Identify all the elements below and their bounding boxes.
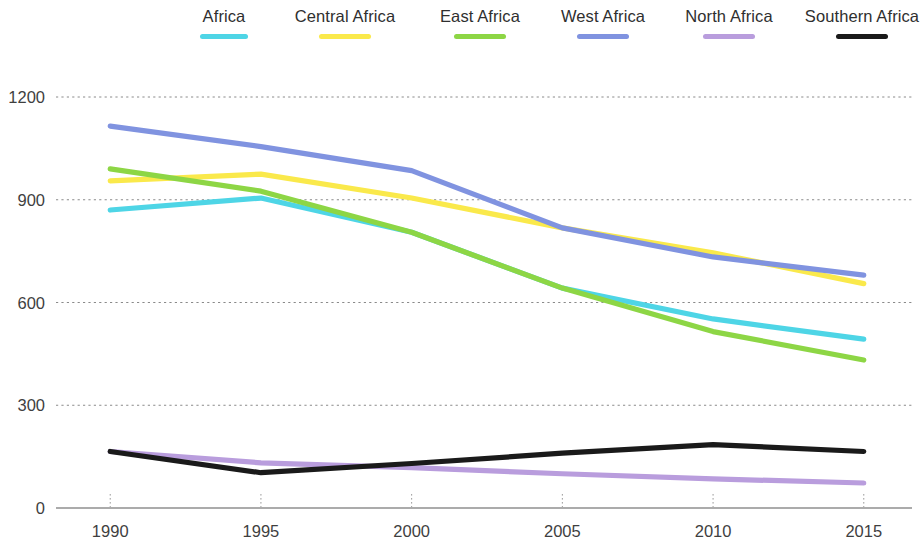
- y-axis-tick-label: 0: [36, 499, 45, 517]
- y-axis-tick-label: 300: [17, 396, 45, 414]
- x-axis-tick-label: 2010: [695, 522, 732, 540]
- chart-plot-area: 12009006003000 199019952000200520102015: [0, 56, 915, 545]
- legend-label: North Africa: [664, 6, 794, 26]
- series-line-central-africa: [110, 174, 864, 284]
- x-axis-tick-label: 1990: [92, 522, 129, 540]
- legend-item-africa[interactable]: Africa: [179, 6, 269, 39]
- x-axis-tick-label: 1995: [243, 522, 280, 540]
- legend-label: Central Africa: [270, 6, 420, 26]
- chart-legend: AfricaCentral AfricaEast AfricaWest Afri…: [0, 0, 915, 56]
- legend-color-swatch: [319, 34, 371, 39]
- legend-color-swatch: [836, 34, 888, 39]
- legend-item-north-africa[interactable]: North Africa: [664, 6, 794, 39]
- y-axis-tick-label: 900: [17, 191, 45, 209]
- series-line-africa: [110, 198, 864, 339]
- legend-label: Southern Africa: [787, 6, 924, 26]
- legend-item-west-africa[interactable]: West Africa: [538, 6, 668, 39]
- y-axis-tick-labels: 12009006003000: [8, 88, 45, 517]
- legend-item-southern-africa[interactable]: Southern Africa: [787, 6, 924, 39]
- legend-label: West Africa: [538, 6, 668, 26]
- legend-item-east-africa[interactable]: East Africa: [415, 6, 545, 39]
- x-axis-tick-labels: 199019952000200520102015: [92, 494, 882, 540]
- legend-label: Africa: [179, 6, 269, 26]
- legend-color-swatch: [200, 34, 248, 39]
- legend-color-swatch: [703, 34, 755, 39]
- legend-color-swatch: [577, 34, 629, 39]
- legend-color-swatch: [454, 34, 506, 39]
- data-series-group: [110, 126, 864, 483]
- legend-label: East Africa: [415, 6, 545, 26]
- x-axis-tick-label: 2000: [393, 522, 430, 540]
- plot-svg: 12009006003000 199019952000200520102015: [0, 56, 915, 545]
- y-axis-tick-label: 1200: [8, 88, 45, 106]
- y-axis-tick-label: 600: [17, 294, 45, 312]
- x-axis-tick-label: 2005: [544, 522, 581, 540]
- legend-item-central-africa[interactable]: Central Africa: [270, 6, 420, 39]
- x-axis-tick-label: 2015: [845, 522, 882, 540]
